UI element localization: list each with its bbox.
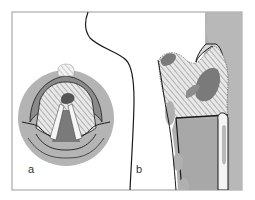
panel-b-label: b [136,163,142,175]
panel-a-label: a [28,163,34,175]
esophagus-inner [222,125,226,165]
anatomical-illustration [0,0,255,200]
epiglottis-hatched [58,64,74,76]
cricoid-cartilage [179,178,189,194]
